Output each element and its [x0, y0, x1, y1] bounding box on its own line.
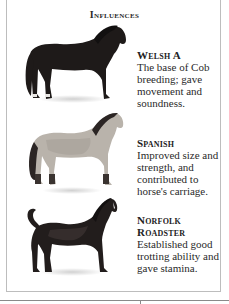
influence-text: Norfolk Roadster Established good trotti… — [137, 214, 219, 274]
norfolk-roadster-illustration — [20, 194, 120, 280]
spanish-horse-illustration — [26, 110, 126, 192]
bottom-divider — [0, 300, 229, 301]
bottom-divider-tick — [140, 300, 141, 304]
breed-description: Improved size and strength, and contribu… — [137, 149, 219, 197]
section-title: Influences — [0, 9, 229, 20]
influence-text: Welsh A The base of Cob breeding; gave m… — [137, 49, 219, 109]
breed-name: Spanish — [137, 137, 219, 149]
influence-text: Spanish Improved size and strength, and … — [137, 137, 219, 197]
breed-name: Welsh A — [137, 49, 219, 61]
breed-name: Norfolk Roadster — [137, 214, 219, 238]
welsh-a-pony-illustration — [22, 24, 132, 106]
breed-description: Established good trotting ability and ga… — [137, 238, 219, 274]
breed-description: The base of Cob breeding; gave movement … — [137, 61, 219, 109]
